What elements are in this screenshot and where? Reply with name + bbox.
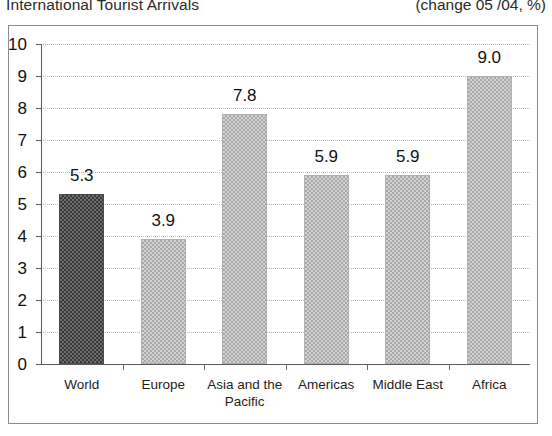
- y-axis-tick-label: 9: [18, 67, 27, 87]
- x-axis-tick: [367, 364, 368, 370]
- bar: [385, 175, 430, 364]
- x-axis-tick: [123, 364, 124, 370]
- y-axis-tick: 6: [36, 172, 42, 173]
- bar-value-label: 3.9: [128, 211, 198, 231]
- y-axis-tick-label: 10: [8, 35, 27, 55]
- bar: [467, 76, 512, 364]
- bar-value-label: 5.3: [47, 166, 117, 186]
- y-axis-tick-label: 0: [18, 355, 27, 375]
- gridline: [41, 140, 530, 141]
- plot-area: 109876543210 5.33.97.85.95.99.0 WorldEur…: [41, 44, 530, 364]
- gridline: [41, 300, 530, 301]
- chart-subtitle-suffix: /04, %): [497, 0, 546, 13]
- bar: [304, 175, 349, 364]
- chart-header: International Tourist Arrivals (change 0…: [0, 0, 552, 18]
- bar-value-label: 5.9: [291, 147, 361, 167]
- bar: [222, 114, 267, 364]
- y-axis-tick: 10: [36, 44, 42, 45]
- y-axis-tick: 3: [36, 268, 42, 269]
- y-axis-tick: 2: [36, 300, 42, 301]
- y-axis-tick-label: 6: [18, 163, 27, 183]
- gridline: [41, 236, 530, 237]
- bar: [141, 239, 186, 364]
- gridline: [41, 108, 530, 109]
- y-axis-tick: 9: [36, 76, 42, 77]
- y-axis-tick-label: 2: [18, 291, 27, 311]
- y-axis-tick-label: 3: [18, 259, 27, 279]
- y-axis-tick: 5: [36, 204, 42, 205]
- y-axis-tick: 8: [36, 108, 42, 109]
- y-axis-tick-label: 7: [18, 131, 27, 151]
- y-axis-tick: 1: [36, 332, 42, 333]
- bar-value-label: 5.9: [373, 147, 443, 167]
- y-axis-tick-label: 1: [18, 323, 27, 343]
- chart-frame: 109876543210 5.33.97.85.95.99.0 WorldEur…: [8, 25, 538, 424]
- gridline: [41, 76, 530, 77]
- gridline: [41, 268, 530, 269]
- gridline: [41, 44, 530, 45]
- bar: [59, 194, 104, 364]
- y-axis-tick: 7: [36, 140, 42, 141]
- chart-subtitle-prefix: (change 05: [415, 0, 493, 13]
- gridline: [41, 332, 530, 333]
- gridline: [41, 204, 530, 205]
- x-axis-tick: [204, 364, 205, 370]
- bar-value-label: 9.0: [454, 48, 524, 68]
- y-axis-tick-label: 8: [18, 99, 27, 119]
- chart-subtitle: (change 05*/04, %): [415, 0, 546, 14]
- y-axis-tick: 0: [36, 364, 42, 365]
- x-axis-tick: [286, 364, 287, 370]
- x-axis-tick: [449, 364, 450, 370]
- bar-value-label: 7.8: [210, 86, 280, 106]
- y-axis-tick-label: 5: [18, 195, 27, 215]
- y-axis-tick: 4: [36, 236, 42, 237]
- y-axis-tick-label: 4: [18, 227, 27, 247]
- category-label: Africa: [439, 376, 539, 393]
- page-title: International Tourist Arrivals: [6, 0, 199, 14]
